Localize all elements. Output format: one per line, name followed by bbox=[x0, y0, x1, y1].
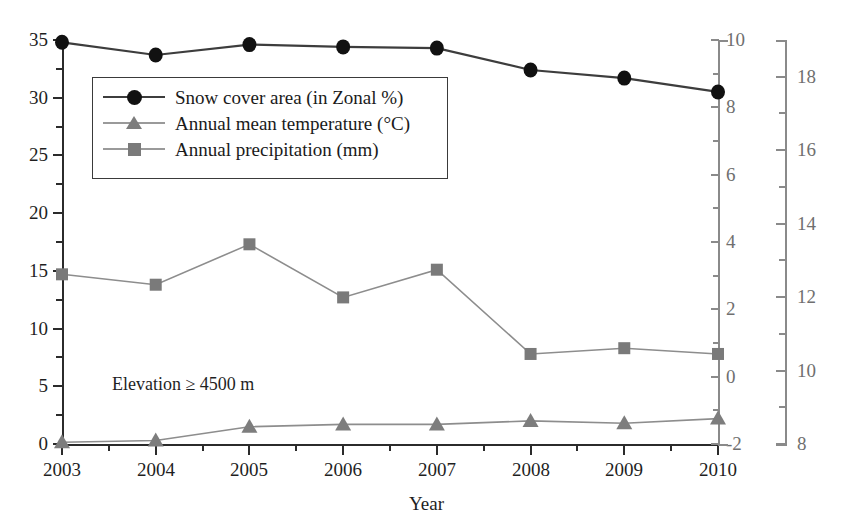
triangle-marker bbox=[241, 419, 257, 433]
x-axis-tick-label: 2004 bbox=[116, 460, 196, 479]
square-marker bbox=[56, 268, 68, 280]
left-axis-tick-label: 5 bbox=[0, 376, 48, 395]
x-axis-major-tick bbox=[248, 444, 250, 455]
right-axis-1-tick-label: 10 bbox=[726, 30, 766, 49]
right-axis-2-tick-label: 12 bbox=[797, 287, 837, 306]
circle-marker bbox=[430, 41, 444, 56]
right-axis-1-tick-label: 8 bbox=[726, 97, 766, 116]
right-axis-2-tick-label: 16 bbox=[797, 140, 837, 159]
right-axis-2-minor-tick bbox=[779, 406, 786, 408]
right-axis-2-tick-label: 18 bbox=[797, 67, 837, 86]
x-axis-tick-label: 2006 bbox=[303, 460, 383, 479]
right-axis-2-tick-label: 14 bbox=[797, 214, 837, 233]
legend-label: Annual precipitation (mm) bbox=[175, 140, 379, 159]
x-axis-minor-tick bbox=[670, 444, 672, 451]
x-axis-major-tick bbox=[530, 444, 532, 455]
legend: Snow cover area (in Zonal %) Annual mean… bbox=[92, 77, 448, 179]
right-axis-2-major-tick bbox=[776, 76, 786, 78]
annotation-elevation: Elevation ≥ 4500 m bbox=[112, 375, 254, 393]
right-axis-1-tick-label: 6 bbox=[726, 165, 766, 184]
right-axis-2-tick-label: 8 bbox=[797, 434, 837, 453]
right-axis-1-cap-bottom bbox=[718, 444, 728, 446]
circle-marker bbox=[617, 71, 631, 86]
circle-marker bbox=[55, 35, 69, 50]
right-axis-1-spine bbox=[718, 40, 720, 446]
x-axis-minor-tick bbox=[483, 444, 485, 451]
circle-marker-icon bbox=[103, 87, 165, 107]
right-axis-2-tick-label: 10 bbox=[797, 361, 837, 380]
x-axis-minor-tick bbox=[108, 444, 110, 451]
x-axis-tick-label: 2008 bbox=[491, 460, 571, 479]
square-marker-icon bbox=[103, 139, 165, 159]
right-axis-1-tick-label: -2 bbox=[726, 434, 766, 453]
x-axis-minor-tick bbox=[389, 444, 391, 451]
legend-item[interactable]: Snow cover area (in Zonal %) bbox=[103, 84, 435, 110]
triangle-marker bbox=[710, 411, 726, 425]
legend-label: Snow cover area (in Zonal %) bbox=[175, 88, 403, 107]
right-axis-2-minor-tick bbox=[779, 333, 786, 335]
x-axis-minor-tick bbox=[576, 444, 578, 451]
left-axis-tick-label: 15 bbox=[0, 261, 48, 280]
triangle-marker-icon bbox=[103, 113, 165, 133]
square-marker bbox=[337, 291, 349, 303]
right-axis-1-tick-label: 4 bbox=[726, 232, 766, 251]
x-axis-tick-label: 2010 bbox=[678, 460, 758, 479]
x-axis-tick-label: 2007 bbox=[397, 460, 477, 479]
square-marker bbox=[712, 348, 724, 360]
right-axis-2-major-tick bbox=[776, 149, 786, 151]
right-axis-2-major-tick bbox=[776, 370, 786, 372]
right-axis-2-spine bbox=[785, 40, 787, 446]
x-axis-minor-tick bbox=[295, 444, 297, 451]
left-axis-tick-label: 30 bbox=[0, 88, 48, 107]
right-axis-2-minor-tick bbox=[779, 186, 786, 188]
circle-marker bbox=[336, 39, 350, 54]
triangle-marker bbox=[335, 416, 351, 430]
right-axis-2-major-tick bbox=[776, 296, 786, 298]
right-axis-2-minor-tick bbox=[779, 259, 786, 261]
square-marker bbox=[150, 279, 162, 291]
square-marker bbox=[525, 348, 537, 360]
x-axis-major-tick bbox=[436, 444, 438, 455]
right-axis-2-major-tick bbox=[776, 223, 786, 225]
series-line bbox=[62, 419, 718, 443]
circle-marker bbox=[711, 84, 725, 99]
legend-item[interactable]: Annual precipitation (mm) bbox=[103, 136, 435, 162]
circle-marker bbox=[524, 63, 538, 78]
triangle-marker bbox=[429, 416, 445, 430]
right-axis-1-tick-label: 0 bbox=[726, 367, 766, 386]
x-axis-major-tick bbox=[342, 444, 344, 455]
circle-marker bbox=[149, 48, 163, 63]
x-axis-tick-label: 2003 bbox=[22, 460, 102, 479]
right-axis-2-cap-top bbox=[776, 40, 786, 42]
left-axis-tick-label: 10 bbox=[0, 319, 48, 338]
legend-item[interactable]: Annual mean temperature (°C) bbox=[103, 110, 435, 136]
left-axis-tick-label: 35 bbox=[0, 30, 48, 49]
square-marker bbox=[431, 264, 443, 276]
right-axis-1-cap-top bbox=[718, 40, 728, 42]
triangle-marker bbox=[54, 434, 70, 448]
right-axis-1-tick-label: 2 bbox=[726, 299, 766, 318]
circle-marker bbox=[242, 37, 256, 52]
left-axis-tick-label: 0 bbox=[0, 434, 48, 453]
square-marker bbox=[243, 238, 255, 250]
series-line bbox=[62, 244, 718, 354]
x-axis-tick-label: 2009 bbox=[584, 460, 664, 479]
right-axis-2-major-tick bbox=[776, 443, 786, 445]
legend-label: Annual mean temperature (°C) bbox=[175, 114, 410, 133]
series-triangle bbox=[54, 411, 726, 449]
right-axis-2-minor-tick bbox=[779, 112, 786, 114]
x-axis-title: Year bbox=[0, 494, 853, 513]
figure: 05101520253035 -20246810 81012141618 200… bbox=[0, 0, 853, 531]
left-axis-tick-label: 20 bbox=[0, 203, 48, 222]
x-axis-minor-tick bbox=[202, 444, 204, 451]
left-axis-tick-label: 25 bbox=[0, 145, 48, 164]
x-axis-tick-label: 2005 bbox=[209, 460, 289, 479]
triangle-marker bbox=[523, 413, 539, 427]
x-axis-major-tick bbox=[623, 444, 625, 455]
square-marker bbox=[618, 342, 630, 354]
series-square bbox=[56, 238, 724, 360]
